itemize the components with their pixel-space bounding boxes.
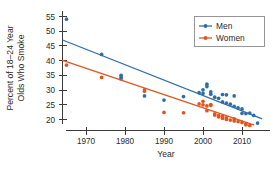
women-data-point: [225, 118, 229, 122]
y-tick-label: 30: [46, 86, 56, 95]
women-data-point: [197, 102, 201, 106]
y-tick-label: 55: [46, 13, 56, 22]
men-trend-line: [63, 40, 262, 119]
x-tick-label: 2010: [233, 137, 252, 146]
x-axis-title: Year: [157, 149, 175, 159]
y-axis-title-line2: Olds Who Smoke: [16, 34, 26, 101]
men-data-point: [162, 98, 166, 102]
y-tick-label: 20: [46, 116, 56, 125]
men-data-point: [143, 94, 147, 98]
y-axis-title-line1: Percent of 18–24 Year: [5, 25, 15, 110]
legend-women-label: Women: [216, 33, 245, 43]
smoking-trend-chart: 2025303540455055 19701980199020002010 Pe…: [0, 0, 280, 170]
men-data-point: [182, 95, 186, 99]
women-data-point: [228, 118, 232, 122]
legend-men-marker: [204, 24, 208, 28]
chart-legend: Men Women: [195, 17, 265, 47]
y-tick-label: 40: [46, 57, 56, 66]
y-tick-label: 35: [46, 71, 56, 80]
women-data-point: [162, 111, 166, 115]
y-tick-label: 25: [46, 101, 56, 110]
men-data-point: [221, 93, 225, 97]
men-data-point: [228, 102, 232, 106]
men-data-point: [225, 101, 229, 105]
men-data-point: [240, 107, 244, 111]
men-data-point: [225, 93, 229, 97]
women-data-point: [201, 99, 205, 103]
women-data-point: [205, 104, 209, 108]
men-data-point: [209, 92, 213, 96]
women-data-point: [143, 89, 147, 93]
women-data-point: [209, 104, 213, 108]
trend-line-group: [63, 40, 262, 125]
men-data-point: [240, 111, 244, 115]
men-data-point: [217, 96, 221, 100]
women-data-point: [248, 124, 252, 128]
men-data-point: [244, 112, 248, 116]
x-tick-label: 1980: [116, 137, 135, 146]
men-data-point: [232, 94, 236, 98]
women-data-point: [232, 117, 236, 121]
women-data-point: [201, 103, 205, 107]
women-data-point: [221, 116, 225, 120]
women-data-point: [205, 109, 209, 113]
legend-women-marker: [204, 36, 208, 40]
men-data-point: [232, 104, 236, 108]
men-data-point: [201, 88, 205, 92]
men-data-point: [252, 114, 256, 118]
men-data-point: [221, 100, 225, 104]
men-data-point: [213, 95, 217, 99]
legend-men-label: Men: [216, 21, 233, 31]
men-data-point: [197, 91, 201, 95]
women-data-point: [236, 120, 240, 124]
x-tick-label: 1970: [77, 137, 96, 146]
men-data-point: [100, 53, 104, 57]
chart-canvas: 2025303540455055 19701980199020002010 Pe…: [0, 0, 280, 170]
y-tick-label: 50: [46, 27, 56, 36]
men-data-point: [119, 76, 123, 80]
women-data-point: [65, 63, 69, 67]
men-data-point: [65, 17, 69, 21]
women-trend-line: [63, 60, 254, 124]
men-data-point: [248, 111, 252, 115]
y-tick-group: 2025303540455055: [46, 13, 67, 125]
y-tick-label: 45: [46, 42, 56, 51]
women-data-point: [182, 111, 186, 115]
x-tick-group: 19701980199020002010: [77, 127, 252, 147]
women-data-point: [244, 123, 248, 127]
men-data-point: [256, 121, 260, 125]
men-data-point: [236, 106, 240, 110]
men-data-point: [201, 91, 205, 95]
women-data-point: [217, 115, 221, 119]
women-data-point: [213, 113, 217, 117]
men-data-point: [205, 82, 209, 86]
x-tick-label: 1990: [155, 137, 174, 146]
x-tick-label: 2000: [194, 137, 213, 146]
women-data-point: [240, 121, 244, 125]
women-data-point: [100, 76, 104, 80]
